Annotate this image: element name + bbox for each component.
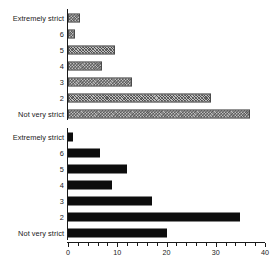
bar-row: Extremely strict [0, 10, 272, 26]
bar-container [68, 133, 73, 142]
x-axis-minor-tick [206, 243, 207, 246]
bar-row-label: 3 [0, 78, 64, 87]
bar-rows-top: Extremely strict65432Not very strict [0, 10, 272, 122]
chart-panel-bottom: Extremely strict65432Not very strict 010… [0, 128, 272, 263]
bar-row: 5 [0, 42, 272, 58]
bar-container [68, 30, 75, 39]
bar [68, 94, 211, 103]
bar-container [68, 165, 127, 174]
bar [68, 197, 152, 206]
bar [68, 78, 132, 87]
x-axis-tick-label: 20 [163, 249, 171, 257]
x-axis-major-tick [265, 243, 266, 247]
bar [68, 133, 73, 142]
bar-container [68, 62, 102, 71]
bar [68, 213, 240, 222]
bar-container [68, 94, 211, 103]
bar-container [68, 78, 132, 87]
x-axis-minor-tick [147, 243, 148, 246]
bar-row-label: 3 [0, 197, 64, 206]
x-axis-major-tick [117, 243, 118, 247]
bar-row: 4 [0, 58, 272, 74]
x-axis-tick-label: 10 [113, 249, 121, 257]
bar-row: 2 [0, 90, 272, 106]
bar-container [68, 149, 100, 158]
bar-row: Not very strict [0, 106, 272, 122]
bar [68, 110, 250, 119]
x-axis-minor-tick [186, 243, 187, 246]
bar-row-label: 5 [0, 46, 64, 55]
x-axis-minor-tick [78, 243, 79, 246]
chart-panel-top: Extremely strict65432Not very strict [0, 0, 272, 128]
x-axis-minor-tick [226, 243, 227, 246]
bar-container [68, 229, 167, 238]
bar-row: 5 [0, 161, 272, 177]
x-axis-minor-tick [98, 243, 99, 246]
bar-row-label: 5 [0, 165, 64, 174]
bar [68, 229, 167, 238]
bar-row-label: Not very strict [0, 229, 64, 238]
x-axis-minor-tick [107, 243, 108, 246]
x-axis-major-tick [216, 243, 217, 247]
x-axis-major-tick [167, 243, 168, 247]
bar [68, 181, 112, 190]
bar-row-label: 4 [0, 181, 64, 190]
bar-row: Not very strict [0, 225, 272, 241]
bar-row-label: Extremely strict [0, 133, 64, 142]
bar-row: 3 [0, 74, 272, 90]
bar-rows-bottom: Extremely strict65432Not very strict [0, 129, 272, 241]
x-axis-minor-tick [235, 243, 236, 246]
bar-container [68, 181, 112, 190]
bar-container [68, 46, 115, 55]
bar-row-label: 2 [0, 94, 64, 103]
x-axis-minor-tick [88, 243, 89, 246]
chart-figure: Extremely strict65432Not very strict Ext… [0, 0, 272, 263]
x-axis-tick-label: 30 [212, 249, 220, 257]
x-axis-minor-tick [137, 243, 138, 246]
bar-row-label: 2 [0, 213, 64, 222]
bar [68, 46, 115, 55]
x-axis-minor-tick [196, 243, 197, 246]
bar-row: Extremely strict [0, 129, 272, 145]
x-axis-minor-tick [127, 243, 128, 246]
bar-container [68, 197, 152, 206]
x-axis-minor-tick [245, 243, 246, 246]
x-axis-tick-label: 40 [261, 249, 269, 257]
bar-row-label: 4 [0, 62, 64, 71]
bar-row-label: Not very strict [0, 110, 64, 119]
bar-row: 6 [0, 145, 272, 161]
bar-row-label: 6 [0, 30, 64, 39]
bar-container [68, 14, 80, 23]
bar-row: 4 [0, 177, 272, 193]
bar [68, 62, 102, 71]
bar-row: 3 [0, 193, 272, 209]
x-axis-minor-tick [176, 243, 177, 246]
x-axis-tick-label: 0 [66, 249, 70, 257]
bar [68, 165, 127, 174]
x-axis-minor-tick [157, 243, 158, 246]
bar-container [68, 110, 250, 119]
bar-row-label: 6 [0, 149, 64, 158]
bar-row: 6 [0, 26, 272, 42]
x-axis-minor-tick [255, 243, 256, 246]
bar [68, 149, 100, 158]
bar-row-label: Extremely strict [0, 14, 64, 23]
bar-container [68, 213, 240, 222]
x-axis-major-tick [68, 243, 69, 247]
bar [68, 14, 80, 23]
bar-row: 2 [0, 209, 272, 225]
bar [68, 30, 75, 39]
